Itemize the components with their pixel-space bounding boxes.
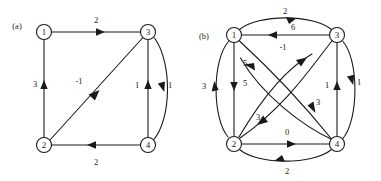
panel-b-weight-1-3: 2: [283, 6, 287, 16]
panel-b: (b) 2 6 3 5: [199, 6, 361, 176]
panel-b-node-1: 1: [227, 28, 242, 43]
panel-b-edge-4-2-path: [240, 150, 332, 162]
panel-b-node-4-label: 4: [335, 139, 340, 149]
panel-a-edge-2-3-line: [50, 38, 143, 140]
panel-a-edge-4-3: 1: [135, 40, 152, 138]
panel-a-weight-1-3: 2: [94, 15, 98, 25]
panel-a-node-2-label: 2: [42, 140, 47, 150]
panel-b-weight-4-3: 1: [325, 80, 329, 90]
panel-a-edge-4-2-arrowhead: [87, 141, 96, 148]
panel-a-node-1: 1: [37, 25, 52, 40]
panel-a-edge-1-3-arrowhead: [96, 28, 105, 35]
panel-b-edge-1-4-path: [240, 41, 332, 139]
panel-b-edge-1-2-arrowhead: [230, 82, 237, 91]
panel-a-edge-4-3-arrowhead: [144, 80, 151, 89]
panel-b-edge-2-1-arrowhead: [212, 81, 219, 92]
panel-b-edge-1-3-path: [240, 18, 332, 30]
panel-a-edge-1-3: 2: [52, 15, 141, 36]
panel-b-node-2-label: 2: [232, 139, 237, 149]
panel-a-node-1-label: 1: [42, 27, 47, 37]
panel-b-edge-2-3: -1: [239, 42, 312, 137]
panel-b-edge-4-3-arrowhead: [333, 81, 340, 90]
panel-b-edge-4-2: 2: [240, 150, 332, 176]
panel-b-edge-3-4-arrowhead: [347, 75, 354, 85]
panel-b-weight-3-2: 3: [256, 112, 260, 122]
panel-a-weight-4-3: 1: [135, 80, 139, 90]
panel-b-edge-1-2: 5: [230, 43, 247, 137]
panel-a-label: (a): [12, 21, 22, 31]
panel-b-edge-2-4: 0: [242, 127, 330, 148]
panel-a-edge-3-4: 1: [154, 38, 173, 140]
panel-a-weight-2-3: -1: [75, 76, 82, 86]
panel-b-edge-3-4-path: [343, 42, 355, 140]
panel-b-edge-2-1: 3: [202, 42, 229, 138]
panel-b-edge-4-3: 1: [325, 43, 341, 137]
panel-a-edge-2-1-arrowhead: [40, 80, 47, 89]
panel-b-edge-3-4: 1: [343, 42, 362, 140]
panel-b-node-4: 4: [330, 137, 345, 152]
panel-b-edge-2-4-arrowhead: [287, 140, 296, 147]
panel-a-node-3: 3: [141, 25, 156, 40]
panel-b-weight-2-4: 0: [285, 127, 289, 137]
panel-b-weight-2-1: 3: [202, 81, 206, 91]
panel-b-node-1-label: 1: [232, 30, 237, 40]
panel-b-weight-4-2: 2: [285, 166, 289, 176]
panel-a-weight-4-2: 2: [94, 157, 98, 167]
panel-b-edge-1-4: 3: [240, 41, 332, 139]
panel-a-edge-2-3: -1: [50, 38, 143, 140]
panel-b-edge-1-3: 2: [240, 6, 332, 30]
panel-a-edge-3-4-arrowhead: [158, 82, 165, 93]
panel-b-node-3: 3: [330, 28, 345, 43]
panel-b-weight-3-1: 6: [291, 22, 295, 32]
panel-b-weight-3-4: 1: [357, 77, 361, 87]
panel-a-node-4: 4: [141, 138, 156, 153]
panel-b-weight-1-2: 5: [243, 78, 247, 88]
panel-a-weight-2-1: 3: [33, 79, 37, 89]
panel-b-edge-3-1-arrowhead: [268, 31, 277, 38]
panel-b-node-2: 2: [227, 137, 242, 152]
panel-b-label: (b): [199, 31, 209, 41]
panel-a: (a) 2 3 -1 1: [12, 15, 172, 167]
graph-figure: (a) 2 3 -1 1: [0, 0, 381, 181]
panel-b-weight-4-1: 5: [243, 58, 247, 68]
panel-b-node-3-label: 3: [335, 30, 340, 40]
graph-figure-canvas: (a) 2 3 -1 1: [0, 0, 381, 181]
panel-a-node-4-label: 4: [146, 140, 151, 150]
panel-a-edge-4-2: 2: [52, 141, 141, 167]
panel-a-edge-2-1: 3: [33, 40, 48, 138]
panel-b-weight-1-4: 3: [316, 97, 320, 107]
panel-a-node-3-label: 3: [146, 27, 151, 37]
panel-a-weight-3-4: 1: [168, 80, 172, 90]
panel-b-edge-4-2-arrowhead: [275, 155, 286, 162]
panel-a-edge-3-4-path: [154, 38, 168, 140]
panel-b-edge-3-1: 6: [242, 22, 330, 39]
panel-a-node-2: 2: [37, 138, 52, 153]
panel-b-weight-2-3: -1: [279, 42, 286, 52]
panel-b-edge-2-3-arrowhead: [296, 58, 307, 67]
